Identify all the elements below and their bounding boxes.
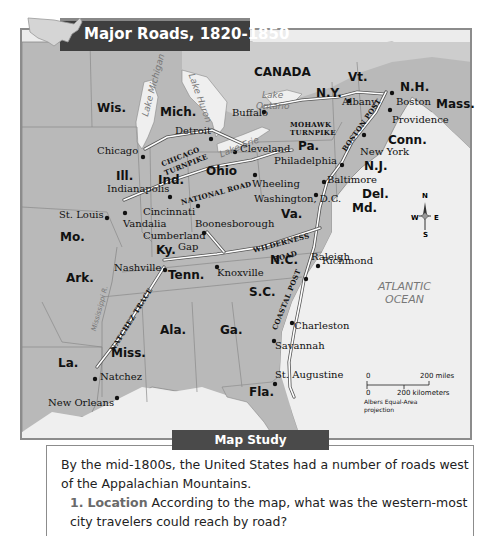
state-ill: Ill. [116, 169, 133, 183]
state-nj: N.J. [364, 159, 388, 173]
lake-ontario-label-1: Lake [262, 90, 283, 100]
projection-label-2: projection [364, 406, 394, 413]
state-mich: Mich. [160, 105, 196, 119]
city-cleveland: Cleveland [240, 143, 290, 154]
city-vandalia: Vandalia [123, 218, 166, 229]
question-1: 1. Location According to the map, what w… [70, 493, 470, 531]
state-ohio: Ohio [206, 164, 237, 178]
question-keyword: Location [87, 495, 147, 510]
state-md: Md. [352, 201, 377, 215]
state-vt: Vt. [348, 70, 368, 84]
state-sc: S.C. [249, 285, 276, 299]
city-raleigh: Raleigh [311, 251, 350, 262]
state-conn: Conn. [388, 133, 427, 147]
state-la: La. [58, 356, 78, 370]
map-title: Major Roads, 1820-1850 [84, 25, 289, 43]
city-boston: Boston [396, 96, 431, 107]
city-natchez: Natchez [100, 371, 142, 382]
scale-zero-miles: 0 [366, 372, 370, 380]
road-mohawk-2: TURNPIKE [290, 128, 336, 137]
question-number: 1. [70, 495, 83, 510]
state-pa: Pa. [298, 139, 319, 153]
city-charleston: Charleston [294, 320, 350, 331]
state-fla: Fla. [249, 385, 274, 399]
country-label-canada: CANADA [254, 65, 311, 79]
city-knoxville: Knoxville [217, 267, 264, 278]
projection-label-1: Albers Equal-Area [364, 398, 417, 405]
city-st-augustine: St. Augustine [275, 369, 343, 380]
city-cumberland-gap-2: Gap [178, 241, 198, 252]
us-map-icon [24, 12, 84, 48]
city-cincinnati: Cincinnati [143, 206, 195, 217]
scale-line [366, 381, 432, 389]
ocean-label-line-2: OCEAN [378, 293, 431, 306]
compass-star-icon [417, 200, 433, 232]
map-study-heading: Map Study [172, 430, 329, 450]
state-nh: N.H. [400, 80, 429, 94]
scale-zero-km: 0 [366, 389, 370, 397]
compass-n: N [422, 192, 428, 200]
scale-km: 200 kilometers [397, 389, 450, 397]
city-nashville: Nashville [114, 262, 161, 273]
city-indianapolis: Indianapolis [107, 183, 169, 194]
city-detroit: Detroit [175, 125, 211, 136]
city-baltimore: Baltimore [327, 174, 377, 185]
state-ky: Ky. [156, 243, 176, 257]
city-st-louis: St. Louis [59, 209, 104, 220]
city-philadelphia: Philadelphia [274, 155, 337, 166]
city-wheeling: Wheeling [252, 178, 300, 189]
city-cumberland-gap-1: Cumberland [143, 230, 206, 241]
compass-s: S [423, 231, 428, 239]
city-new-orleans: New Orleans [48, 397, 114, 408]
compass-e: E [434, 214, 439, 222]
state-mo: Mo. [60, 230, 85, 244]
ocean-label: ATLANTIC OCEAN [378, 280, 431, 306]
state-mass: Mass. [436, 97, 475, 111]
city-boonesborough: Boonesborough [195, 218, 274, 229]
city-savannah: Savannah [275, 340, 325, 351]
state-va: Va. [281, 207, 302, 221]
city-chicago: Chicago [97, 145, 138, 156]
state-ny: N.Y. [316, 86, 342, 100]
city-new-york: New York [360, 146, 409, 157]
state-wis: Wis. [97, 101, 126, 115]
city-buffalo: Buffalo [232, 107, 268, 118]
state-ga: Ga. [220, 323, 243, 337]
map-study-intro: By the mid-1800s, the United States had … [61, 455, 471, 493]
state-ala: Ala. [160, 323, 186, 337]
state-del: Del. [362, 187, 389, 201]
city-washington: Washington, D.C. [254, 193, 341, 204]
ocean-label-line-1: ATLANTIC [378, 280, 431, 293]
city-providence: Providence [392, 114, 449, 125]
state-ark: Ark. [66, 271, 94, 285]
scale-miles: 200 miles [420, 372, 454, 380]
state-tenn: Tenn. [168, 268, 204, 282]
